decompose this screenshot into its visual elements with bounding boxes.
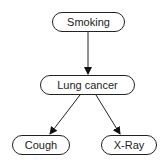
node-label: Lung cancer [57,79,118,91]
edge-lung-cancer-xray [96,95,120,134]
node-label: X-Ray [114,139,145,151]
node-label: Cough [25,139,57,151]
node-xray: X-Ray [101,135,157,155]
edge-lung-cancer-cough [50,95,80,134]
node-lung-cancer: Lung cancer [40,75,135,95]
node-smoking: Smoking [52,12,125,32]
node-label: Smoking [67,16,110,28]
node-cough: Cough [12,135,70,155]
